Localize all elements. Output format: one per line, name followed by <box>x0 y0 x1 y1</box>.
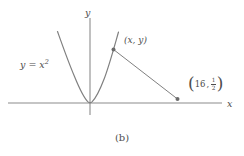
fraction-numerator: 1 <box>212 77 216 83</box>
figure-caption: (b) <box>0 132 244 143</box>
connecting-segment <box>114 50 178 100</box>
curve-equation-exponent: 2 <box>45 58 49 66</box>
figure-container: y = x2 y x (x, y) ( 16 , 1 2 ) (b) <box>0 0 244 156</box>
curve-equation-text: y = x <box>20 59 45 70</box>
point-fixed-x-value: 16 <box>195 80 207 89</box>
point-marker-on-curve <box>112 48 116 52</box>
point-on-curve-label: (x, y) <box>124 36 147 45</box>
point-fixed-label: ( 16 , 1 2 ) <box>188 77 223 91</box>
point-marker-fixed <box>176 97 180 101</box>
parabola-curve <box>58 32 119 103</box>
y-axis-label: y <box>85 8 90 18</box>
x-axis-label: x <box>227 99 232 109</box>
curve-equation-label: y = x2 <box>20 59 49 70</box>
fraction-denominator: 2 <box>212 85 216 91</box>
open-paren: ( <box>188 77 195 91</box>
close-paren: ) <box>217 77 224 91</box>
